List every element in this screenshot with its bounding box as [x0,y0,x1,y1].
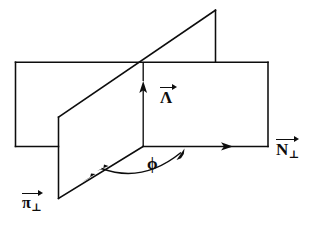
pi-perp-vector-label: π⊥ [22,190,43,213]
diagram-svg [0,0,312,232]
lambda-vector-label: Λ [160,84,177,106]
pi-perp-glyph-row: π⊥ [22,195,43,213]
horizontal-plane-group [16,62,269,146]
slanted-plane-bottom-edge [59,146,144,198]
lambda-vector-arrow-accent [160,84,177,90]
phi-angle-arc-group [97,149,185,174]
slanted-plane-top-edge [59,10,216,117]
n-perp-vector-label: N⊥ [276,136,299,160]
phi-angle-label: ϕ [147,155,158,172]
pi-perp-vector-arrow-accent [22,190,43,196]
phi-angle-arc [102,153,182,174]
figure-canvas: Λ N⊥ π⊥ ϕ [0,0,312,232]
n-perp-vector-arrow-accent [276,136,299,142]
lambda-vector-group [139,62,147,146]
pi-perp-subscript: ⊥ [31,201,42,213]
n-symbol: N [276,140,288,159]
slanted-plane-group [59,10,216,198]
n-perp-subscript: ⊥ [289,148,300,160]
lambda-symbol: Λ [160,89,177,106]
n-perp-vector-group [143,142,268,150]
pi-symbol: π [22,194,31,211]
n-perp-glyph-row: N⊥ [276,141,299,160]
